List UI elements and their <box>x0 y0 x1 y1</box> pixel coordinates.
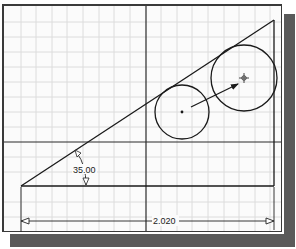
hypotenuse-line[interactable] <box>21 20 274 186</box>
linear-dimension-value[interactable]: 2.020 <box>153 216 176 226</box>
linear-dimension[interactable] <box>21 187 274 232</box>
drag-arrow-icon <box>191 84 238 107</box>
sketch-drawing[interactable]: 35.00 2.020 <box>0 0 296 249</box>
small-circle-center-point[interactable] <box>181 111 184 114</box>
triangle-profile[interactable] <box>21 20 274 186</box>
angle-dimension-value[interactable]: 35.00 <box>73 165 96 175</box>
angle-dimension[interactable]: 35.00 <box>72 150 97 185</box>
grid <box>0 0 296 249</box>
